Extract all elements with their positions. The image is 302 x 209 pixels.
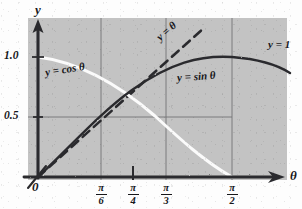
x-tick-pi-2-denominator: 2: [221, 196, 243, 207]
x-tick-pi-4-numerator: π: [122, 183, 144, 194]
y-tick-label-0-5: 0.5: [4, 110, 18, 122]
x-tick-label-pi-2: π 2: [221, 183, 243, 206]
trig-figure: y θ 0 1.0 0.5 π 6 π 4 π 3 π 2 y = cos θ …: [0, 0, 302, 209]
origin-label: 0: [32, 180, 39, 193]
x-tick-pi-3-numerator: π: [155, 183, 177, 194]
x-tick-label-pi-3: π 3: [155, 183, 177, 206]
x-tick-pi-3-denominator: 3: [155, 196, 177, 207]
x-tick-label-pi-4: π 4: [122, 183, 144, 206]
y-tick-label-1-0: 1.0: [4, 50, 18, 62]
x-tick-pi-2-numerator: π: [221, 183, 243, 194]
x-tick-pi-4-denominator: 4: [122, 196, 144, 207]
x-tick-pi-6-numerator: π: [90, 183, 112, 194]
x-tick-label-pi-6: π 6: [90, 183, 112, 206]
x-axis-label: θ: [290, 169, 297, 182]
trig-plot-svg: [0, 0, 302, 209]
y-axis-label: y: [35, 3, 41, 16]
curve-label-unit: y = 1: [268, 39, 290, 50]
plot-area-background: [28, 18, 287, 180]
x-tick-pi-6-denominator: 6: [90, 196, 112, 207]
